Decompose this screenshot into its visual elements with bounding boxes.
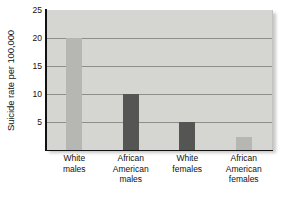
y-axis-tick-labels: 510152025 (22, 0, 44, 160)
x-tick-label-line: females (216, 174, 273, 185)
plot-area (46, 10, 273, 150)
x-tick-label: Whitefemales (159, 153, 216, 174)
x-tick-label-line: White (46, 153, 103, 164)
bar-chart-figure: Suicide rate per 100,000 510152025 White… (0, 0, 290, 200)
y-tick-label: 5 (37, 117, 42, 127)
x-axis-category-labels: WhitemalesAfricanAmericanmalesWhitefemal… (46, 153, 272, 199)
y-axis-title: Suicide rate per 100,000 (0, 0, 22, 160)
y-axis-title-text: Suicide rate per 100,000 (6, 29, 17, 130)
y-axis-line (45, 9, 47, 151)
x-axis-line (45, 150, 273, 152)
y-tick-label: 20 (33, 33, 42, 43)
bars-layer (46, 10, 272, 150)
x-tick-label-line: White (159, 153, 216, 164)
x-tick-label-line: males (46, 164, 103, 175)
y-tick-label: 10 (33, 89, 42, 99)
bar (179, 122, 195, 150)
x-tick-label: AfricanAmericanfemales (216, 153, 273, 185)
bar (66, 38, 82, 150)
x-tick-label: Whitemales (46, 153, 103, 174)
y-tick-label: 25 (33, 5, 42, 15)
bar (123, 94, 139, 150)
y-tick-label: 15 (33, 61, 42, 71)
bar (236, 137, 252, 150)
x-tick-label-line: African (103, 153, 160, 164)
x-tick-label-line: African (216, 153, 273, 164)
x-tick-label-line: American (103, 164, 160, 175)
x-tick-label-line: males (103, 174, 160, 185)
x-tick-label-line: females (159, 164, 216, 175)
x-tick-label: AfricanAmericanmales (103, 153, 160, 185)
x-tick-label-line: American (216, 164, 273, 175)
